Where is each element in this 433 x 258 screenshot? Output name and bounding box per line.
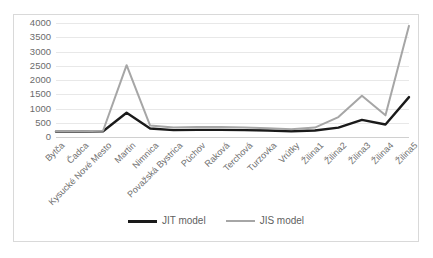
x-axis-tick-label: Vrútky — [278, 141, 302, 165]
y-axis: 05001000150020002500300035004000 — [14, 15, 54, 145]
y-axis-tick-label: 3500 — [30, 33, 51, 43]
x-axis-tick-label: Žilina3 — [347, 141, 372, 166]
y-axis-tick-label: 1000 — [30, 104, 51, 114]
chart-frame: 05001000150020002500300035004000 BytčaČa… — [13, 14, 419, 242]
x-axis-tick-label: Žilina5 — [394, 141, 419, 166]
y-axis-tick-label: 0 — [46, 132, 51, 142]
x-axis-tick-label: Púchov — [180, 141, 208, 169]
y-axis-tick-label: 3000 — [30, 47, 51, 57]
chart-legend: JIT model JIS model — [14, 211, 418, 231]
legend-label: JIS model — [260, 216, 304, 226]
legend-label: JIT model — [162, 216, 206, 226]
y-axis-tick-label: 2000 — [30, 75, 51, 85]
x-axis-tick-label: Žilina4 — [371, 141, 396, 166]
legend-item-jis: JIS model — [226, 216, 304, 226]
y-axis-tick-label: 1500 — [30, 90, 51, 100]
x-axis: BytčaČadcaKysucké Nové MestoMartinNimnic… — [56, 137, 409, 209]
legend-item-jit: JIT model — [128, 216, 206, 226]
x-axis-tick-label: Žilina1 — [300, 141, 325, 166]
series-line — [56, 26, 409, 131]
x-axis-tick-label: Žilina2 — [324, 141, 349, 166]
series-lines — [56, 23, 409, 137]
legend-swatch-line-icon — [226, 220, 255, 223]
legend-swatch-line-icon — [128, 220, 157, 223]
y-axis-tick-label: 4000 — [30, 18, 51, 28]
y-axis-tick-label: 2500 — [30, 61, 51, 71]
y-axis-tick-label: 500 — [35, 118, 51, 128]
plot-area — [56, 23, 409, 137]
